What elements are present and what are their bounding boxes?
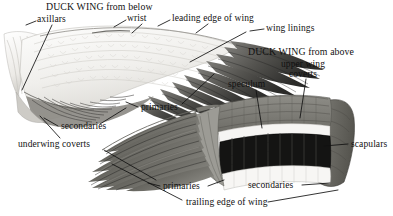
label-secondaries-below: secondaries [61,121,106,131]
title-duck-wing-from-below: DUCK WING from below [46,2,153,12]
label-axillars: axillars [37,14,66,24]
label-secondaries-above: secondaries [248,180,293,190]
label-upper-wing-coverts-line2: coverts [268,69,338,79]
label-underwing-coverts: underwing coverts [18,139,90,149]
label-upper-wing-coverts-line1: upper wing [268,59,338,69]
label-wing-linings: wing linings [266,23,314,33]
primaries-above-art [88,112,214,191]
label-speculum: speculum [228,79,265,89]
label-primaries-below: primaries [141,102,178,112]
label-leading-edge-of-wing: leading edge of wing [172,13,254,23]
label-wrist: wrist [127,13,147,23]
duck-wing-diagram: DUCK WING from below axillars wrist lead… [0,0,393,216]
title-duck-wing-from-above: DUCK WING from above [248,47,354,57]
label-scapulars: scapulars [351,139,387,149]
label-primaries-above: primaries [163,181,200,191]
label-trailing-edge-of-wing: trailing edge of wing [186,197,268,207]
